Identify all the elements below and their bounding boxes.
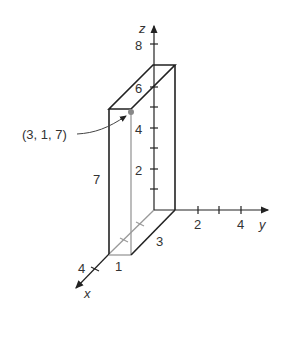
y-axis bbox=[154, 206, 268, 214]
z-axis bbox=[150, 26, 158, 210]
point-marker bbox=[128, 109, 134, 115]
box-diagram: z 8 6 4 2 2 4 y 4 x 7 3 1 (3, 1, 7) bbox=[0, 0, 288, 337]
z-tick-4: 4 bbox=[135, 122, 142, 137]
z-tick-2: 2 bbox=[135, 163, 142, 178]
y-tick-4: 4 bbox=[237, 217, 244, 232]
hidden-edges bbox=[109, 112, 154, 255]
y-tick-2: 2 bbox=[194, 217, 201, 232]
height-label: 7 bbox=[93, 172, 100, 187]
z-tick-8: 8 bbox=[135, 38, 142, 53]
width-label: 1 bbox=[115, 259, 122, 274]
x-axis-label: x bbox=[83, 286, 91, 301]
y-axis-label: y bbox=[258, 217, 267, 232]
point-leader-arrow bbox=[77, 116, 126, 134]
x-tick-4: 4 bbox=[78, 261, 85, 276]
z-tick-6: 6 bbox=[135, 81, 142, 96]
z-axis-label: z bbox=[138, 21, 146, 36]
point-label: (3, 1, 7) bbox=[22, 127, 67, 142]
depth-label: 3 bbox=[156, 234, 163, 249]
